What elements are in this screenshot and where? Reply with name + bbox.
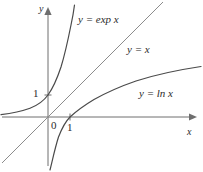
y-axis-arrow-icon bbox=[44, 7, 51, 15]
x-axis-tick-label-1: 1 bbox=[67, 122, 73, 133]
curve-label-exp: y = exp x bbox=[78, 14, 119, 25]
exponential-logarithm-figure: y = exp x y = x y = ln x y x 0 1 1 bbox=[0, 0, 203, 172]
y-axis bbox=[44, 7, 51, 166]
origin-label: 0 bbox=[51, 120, 57, 131]
y-axis-tick-label-1: 1 bbox=[33, 88, 39, 99]
curve-label-ln: y = ln x bbox=[139, 88, 173, 99]
graph-canvas bbox=[0, 0, 203, 172]
y-axis-label: y bbox=[39, 4, 43, 14]
x-axis-arrow-icon bbox=[189, 113, 197, 120]
curve-ln bbox=[50, 67, 201, 171]
x-axis bbox=[2, 113, 197, 120]
x-axis-label: x bbox=[187, 127, 191, 137]
curve-label-identity: y = x bbox=[127, 44, 150, 55]
curve-identity bbox=[2, 2, 163, 163]
